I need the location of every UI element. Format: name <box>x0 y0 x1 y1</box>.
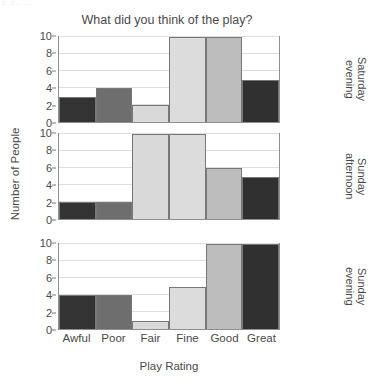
bar-cell-great <box>242 134 279 219</box>
bar-cell-poor <box>96 134 133 219</box>
bar-cell-fair <box>132 37 169 122</box>
bar-good <box>206 37 243 122</box>
bar-fine <box>169 287 206 330</box>
facet-panel-sunday-evening <box>58 243 280 330</box>
bar-cell-awful <box>59 244 96 329</box>
y-tick-mark <box>52 185 56 186</box>
bar-cell-poor <box>96 244 133 329</box>
bar-cell-fine <box>169 134 206 219</box>
y-tick-mark <box>52 330 56 331</box>
bar-group <box>59 134 279 219</box>
x-tick-label-fine: Fine <box>169 332 206 344</box>
x-axis-label: Play Rating <box>58 360 280 372</box>
y-tick-mark <box>52 36 56 37</box>
bar-good <box>206 168 243 219</box>
chart-title: What did you think of the play? <box>0 13 334 27</box>
bar-cell-good <box>206 134 243 219</box>
facet-label-2: Sunday evening <box>282 243 368 330</box>
bar-cell-fair <box>132 244 169 329</box>
y-tick-label: 10 <box>40 31 52 42</box>
bar-awful <box>59 202 96 219</box>
bar-cell-good <box>206 244 243 329</box>
bar-cell-great <box>242 37 279 122</box>
bar-great <box>242 177 279 220</box>
bar-cell-good <box>206 37 243 122</box>
bar-great <box>242 80 279 123</box>
facet-label-1: Sunday afternoon <box>282 133 368 220</box>
y-tick-mark <box>52 312 56 313</box>
y-tick-mark <box>52 150 56 151</box>
bar-good <box>206 244 243 329</box>
bar-group <box>59 244 279 329</box>
y-tick-mark <box>52 88 56 89</box>
bar-fine <box>169 134 206 219</box>
bar-fair <box>132 134 169 219</box>
y-axis-ticks-panel-0: 0246810 <box>0 36 56 123</box>
facet-label-0: Saturday evening <box>282 36 368 123</box>
bar-cell-awful <box>59 134 96 219</box>
y-tick-mark <box>52 70 56 71</box>
y-tick-mark <box>52 243 56 244</box>
y-tick-label: 10 <box>40 238 52 249</box>
facet-panel-sunday-afternoon <box>58 133 280 220</box>
bar-fair <box>132 105 169 122</box>
x-tick-label-poor: Poor <box>95 332 132 344</box>
bar-poor <box>96 88 133 122</box>
bar-poor <box>96 295 133 329</box>
y-tick-mark <box>52 53 56 54</box>
bar-cell-awful <box>59 37 96 122</box>
facet-panel-saturday-evening <box>58 36 280 123</box>
bar-fine <box>169 37 206 122</box>
x-tick-label-good: Good <box>206 332 243 344</box>
x-axis-tick-labels: AwfulPoorFairFineGoodGreat <box>58 332 280 344</box>
bar-fair <box>132 321 169 330</box>
bar-group <box>59 37 279 122</box>
y-tick-mark <box>52 202 56 203</box>
y-tick-mark <box>52 133 56 134</box>
y-tick-mark <box>52 277 56 278</box>
y-axis-ticks-panel-1: 0246810 <box>0 133 56 220</box>
bar-cell-fine <box>169 244 206 329</box>
x-tick-label-awful: Awful <box>58 332 95 344</box>
bar-cell-poor <box>96 37 133 122</box>
bar-great <box>242 244 279 329</box>
bar-cell-fine <box>169 37 206 122</box>
y-tick-mark <box>52 295 56 296</box>
y-tick-mark <box>52 220 56 221</box>
y-tick-mark <box>52 105 56 106</box>
y-tick-mark <box>52 123 56 124</box>
y-tick-mark <box>52 260 56 261</box>
page-fragment-text: c..c... ... <box>2 0 32 6</box>
bar-poor <box>96 202 133 219</box>
y-tick-mark <box>52 167 56 168</box>
bar-awful <box>59 295 96 329</box>
bar-cell-great <box>242 244 279 329</box>
bar-awful <box>59 97 96 123</box>
x-tick-label-great: Great <box>243 332 280 344</box>
x-tick-label-fair: Fair <box>132 332 169 344</box>
bar-cell-fair <box>132 134 169 219</box>
y-tick-label: 10 <box>40 128 52 139</box>
y-axis-ticks-panel-2: 0246810 <box>0 243 56 330</box>
